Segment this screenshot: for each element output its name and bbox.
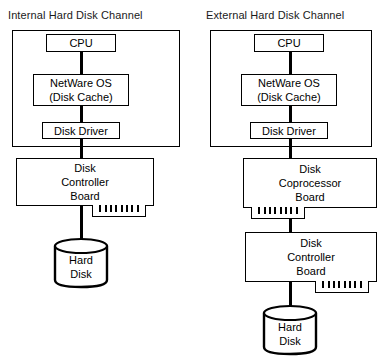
node-netware-os-external-line2: (Disk Cache) [257,90,321,104]
storage-hard-disk-external: Hard Disk [261,304,319,356]
board-disk-controller-internal-body: Disk Controller Board [16,158,154,206]
card-edge-connector-icon [92,205,146,217]
hard-disk-channel-diagram: Internal Hard Disk Channel CPU NetWare O… [0,0,386,363]
card-edge-connector-icon [315,281,369,293]
node-cpu-external: CPU [254,34,324,52]
node-netware-os-internal: NetWare OS (Disk Cache) [33,74,129,106]
wire-os-to-driver-right [289,106,292,122]
board-disk-controller-external-line3: Board [296,264,325,278]
storage-hard-disk-internal-line1: Hard [52,253,110,267]
board-disk-controller-internal-line1: Disk [74,161,95,175]
wire-driver-to-controller-left [80,138,83,160]
board-disk-controller-internal-line3: Board [70,189,99,203]
board-disk-coprocessor-external-line1: Disk [299,162,320,176]
storage-hard-disk-external-line2: Disk [261,334,319,348]
wire-driver-to-coprocessor-right [289,138,292,160]
column-title-external: External Hard Disk Channel [206,9,344,22]
card-edge-connector-icon [251,207,305,219]
board-disk-controller-internal-line2: Controller [61,175,109,189]
node-cpu-internal-label: CPU [69,36,92,50]
storage-hard-disk-external-line1: Hard [261,320,319,334]
node-cpu-external-label: CPU [277,36,300,50]
node-disk-driver-internal-label: Disk Driver [54,124,108,138]
board-disk-coprocessor-external: Disk Coprocessor Board [243,158,377,220]
wire-cpu-to-os-right [289,50,292,74]
column-title-internal: Internal Hard Disk Channel [8,9,143,22]
node-netware-os-internal-line2: (Disk Cache) [49,90,113,104]
board-disk-controller-external-line2: Controller [287,250,335,264]
node-disk-driver-external-label: Disk Driver [262,124,316,138]
storage-hard-disk-internal-line2: Disk [52,267,110,281]
node-netware-os-external-line1: NetWare OS [258,76,320,90]
node-netware-os-internal-line1: NetWare OS [50,76,112,90]
node-cpu-internal: CPU [46,34,116,52]
node-netware-os-external: NetWare OS (Disk Cache) [241,74,337,106]
board-disk-controller-external-body: Disk Controller Board [245,232,377,282]
board-disk-controller-external: Disk Controller Board [245,232,377,294]
board-disk-controller-internal: Disk Controller Board [16,158,154,218]
board-disk-coprocessor-external-line2: Coprocessor [279,176,341,190]
wire-os-to-driver-left [80,106,83,122]
storage-hard-disk-internal: Hard Disk [52,237,110,289]
node-disk-driver-external: Disk Driver [250,122,328,139]
wire-cpu-to-os-left [80,50,83,74]
board-disk-controller-external-line1: Disk [300,236,321,250]
board-disk-coprocessor-external-body: Disk Coprocessor Board [243,158,377,208]
board-disk-coprocessor-external-line3: Board [295,190,324,204]
node-disk-driver-internal: Disk Driver [42,122,120,139]
